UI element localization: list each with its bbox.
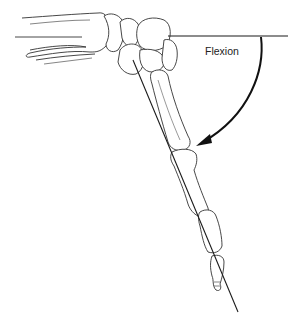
arrowhead-icon bbox=[196, 134, 212, 146]
diagram-drawing bbox=[0, 0, 300, 320]
diagonal-reference-line bbox=[133, 60, 238, 312]
flexion-label: Flexion bbox=[205, 45, 239, 57]
first-phalanx bbox=[171, 149, 209, 216]
flexion-diagram: Flexion bbox=[0, 0, 300, 320]
radius-bone bbox=[22, 13, 111, 64]
carpal-bones bbox=[104, 14, 177, 74]
cannon-bone bbox=[151, 70, 191, 151]
